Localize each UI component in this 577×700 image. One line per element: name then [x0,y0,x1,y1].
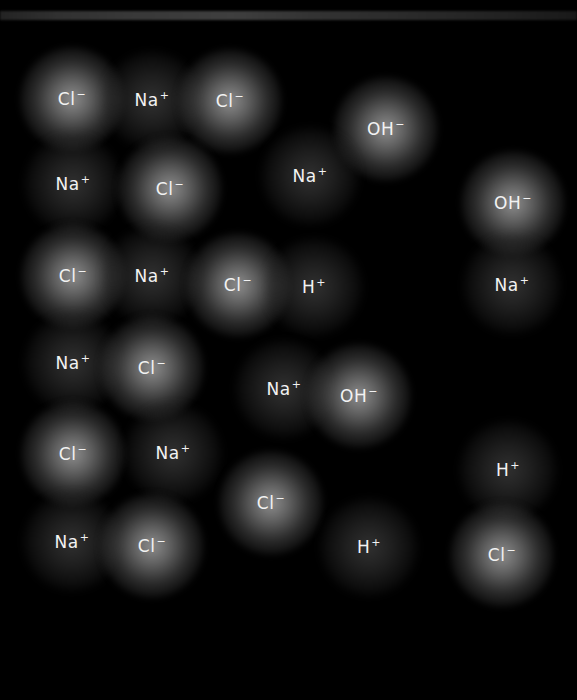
ion-label-cl: Cl− [257,495,285,512]
ion-symbol: H [302,277,315,297]
ion-charge: − [76,88,86,101]
ion-symbol: Cl [138,358,156,378]
ion-symbol: Na [156,443,180,463]
ion-charge: − [174,178,184,191]
ion-label-h: H+ [357,539,381,556]
ion-symbol: Na [56,174,80,194]
ion-charge: + [181,442,191,455]
ion-label-h: H+ [302,279,326,296]
ion-label-oh: OH− [367,121,405,138]
ion-label-oh: OH− [494,195,532,212]
ion-charge: − [234,90,244,103]
ion-label-na: Na+ [495,277,530,294]
ion-charge: + [318,165,328,178]
ion-charge: − [522,192,532,205]
ion-charge: − [368,385,378,398]
ion-symbol: OH [367,119,394,139]
ion-symbol: H [357,537,370,557]
ion-label-oh: OH− [340,388,378,405]
ion-charge: + [520,274,530,287]
ion-charge: + [81,352,91,365]
ion-charge: − [506,544,516,557]
ion-charge: − [156,535,166,548]
ion-symbol: Cl [257,493,275,513]
ion-charge: − [156,357,166,370]
ion-label-na: Na+ [267,381,302,398]
ion-symbol: Cl [224,275,242,295]
ion-label-na: Na+ [56,176,91,193]
ion-label-na: Na+ [293,168,328,185]
ion-symbol: Na [56,353,80,373]
ion-symbol: Na [55,532,79,552]
ion-label-cl: Cl− [59,268,87,285]
ion-label-na: Na+ [156,445,191,462]
ion-label-na: Na+ [135,268,170,285]
ion-charge: + [160,89,170,102]
ion-symbol: H [496,460,509,480]
ion-charge: − [77,443,87,456]
ion-label-cl: Cl− [488,547,516,564]
ion-label-cl: Cl− [58,91,86,108]
ion-charge: − [395,118,405,131]
ion-symbol: Cl [59,444,77,464]
ion-solution-canvas: Cl− Na+ Cl− OH− Na+ Cl− Na+ OH− Cl− Na+ … [0,0,577,700]
ion-symbol: Na [293,166,317,186]
ion-label-na: Na+ [56,355,91,372]
ion-charge: + [81,173,91,186]
ion-symbol: Cl [216,91,234,111]
ion-charge: − [275,492,285,505]
ion-label-cl: Cl− [216,93,244,110]
ion-label-cl: Cl− [138,360,166,377]
ion-charge: + [371,536,381,549]
ion-label-na: Na+ [135,92,170,109]
ion-charge: + [510,459,520,472]
ion-symbol: Cl [59,266,77,286]
ion-label-cl: Cl− [59,446,87,463]
ion-label-h: H+ [496,462,520,479]
ion-symbol: Na [135,90,159,110]
ion-charge: + [160,265,170,278]
ion-charge: − [242,274,252,287]
ion-symbol: OH [340,386,367,406]
ion-label-cl: Cl− [138,538,166,555]
ion-label-cl: Cl− [224,277,252,294]
ion-label-cl: Cl− [156,181,184,198]
ion-symbol: Cl [156,179,174,199]
ion-symbol: Cl [488,545,506,565]
ion-label-na: Na+ [55,534,90,551]
ion-charge: + [316,276,326,289]
ion-symbol: Na [267,379,291,399]
ion-charge: − [77,265,87,278]
ion-symbol: Cl [138,536,156,556]
ion-symbol: Na [135,266,159,286]
ion-symbol: OH [494,193,521,213]
ion-symbol: Cl [58,89,76,109]
top-gradient-strip [0,11,577,20]
ion-charge: + [80,531,90,544]
ion-charge: + [292,378,302,391]
ion-symbol: Na [495,275,519,295]
